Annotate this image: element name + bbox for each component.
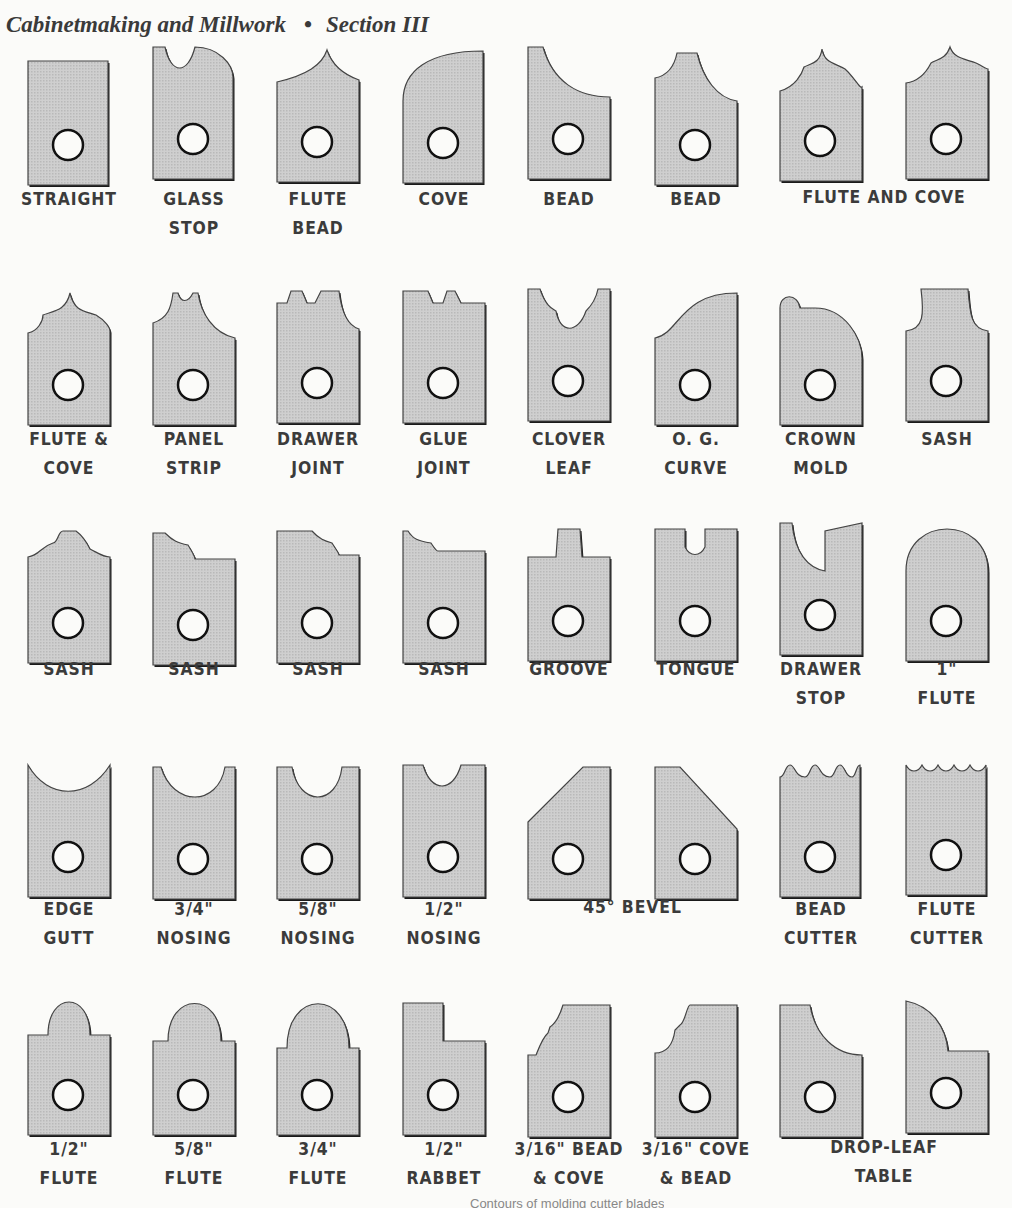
- blade-label-sash-4: SASH: [375, 655, 513, 684]
- arbor-hole-icon: [178, 124, 208, 154]
- blade-profile-icon: [277, 767, 365, 908]
- blade-profile-icon: [153, 47, 241, 188]
- blade-profile-icon: [906, 763, 994, 904]
- blade-profile-icon: [28, 53, 116, 194]
- arbor-hole-icon: [931, 366, 961, 396]
- blade-profile-icon: [403, 531, 491, 672]
- arbor-hole-icon: [680, 606, 710, 636]
- cutter-blade-drawer-joint: [277, 291, 359, 426]
- cutter-blade-five-eighth-nosing: [277, 767, 359, 902]
- blade-profile-icon: [780, 49, 868, 190]
- cutter-blade-bead-2: [655, 53, 737, 188]
- cutter-blade-bevel-1: [528, 767, 610, 902]
- blade-label-half-nosing: 1/2"NOSING: [375, 895, 513, 953]
- blade-profile-icon: [403, 51, 491, 192]
- blade-label-cove: COVE: [375, 185, 513, 214]
- blade-profile-icon: [780, 523, 868, 664]
- blade-profile-icon: [655, 53, 743, 194]
- blade-label-sash-1: SASH: [0, 655, 138, 684]
- arbor-hole-icon: [805, 842, 835, 872]
- blade-profile-icon: [655, 767, 743, 908]
- cutter-blade-groove: [528, 529, 610, 664]
- arbor-hole-icon: [302, 844, 332, 874]
- arbor-hole-icon: [178, 370, 208, 400]
- cutter-blade-flute-cutter: [906, 763, 988, 898]
- blade-profile-icon: [28, 1003, 116, 1144]
- blade-label-three-quarter-flute: 3/4"FLUTE: [249, 1135, 387, 1193]
- cutter-blade-crown-mold: [780, 293, 862, 428]
- cutter-blade-glass-stop: [153, 47, 235, 182]
- blade-profile-icon: [655, 529, 743, 670]
- cutter-blade-edge-gutt: [28, 765, 110, 900]
- arbor-hole-icon: [428, 608, 458, 638]
- blade-label-drawer-joint: DRAWERJOINT: [249, 425, 387, 483]
- blade-profile-icon: [28, 293, 116, 434]
- blade-profile-icon: [528, 1005, 616, 1146]
- cutter-blade-drop-leaf-1: [780, 1005, 862, 1140]
- cutter-blade-cove: [403, 51, 485, 186]
- arbor-hole-icon: [805, 370, 835, 400]
- blade-label-flute-bead: FLUTEBEAD: [249, 185, 387, 243]
- group-label: 45° BEVEL: [518, 893, 747, 922]
- blade-label-cove-and-bead: 3/16" COVE& BEAD: [627, 1135, 765, 1193]
- blade-label-half-rabbet: 1/2"RABBET: [375, 1135, 513, 1193]
- cutter-blade-flute-bead: [277, 50, 359, 185]
- cutter-blade-flute-and-cove-1: [780, 49, 862, 184]
- blade-profile-icon: [153, 533, 241, 674]
- blade-label-straight: STRAIGHT: [0, 185, 138, 214]
- blade-label-one-inch-flute: 1"FLUTE: [878, 655, 1012, 713]
- cutter-blade-one-inch-flute: [906, 529, 988, 664]
- cutter-blade-half-rabbet: [403, 1003, 485, 1138]
- blade-profile-icon: [528, 47, 616, 188]
- blade-label-edge-gutt: EDGEGUTT: [0, 895, 138, 953]
- arbor-hole-icon: [931, 124, 961, 154]
- arbor-hole-icon: [680, 1082, 710, 1112]
- arbor-hole-icon: [53, 370, 83, 400]
- blade-profile-icon: [780, 765, 868, 906]
- arbor-hole-icon: [931, 840, 961, 870]
- section-label: Section III: [326, 12, 429, 37]
- cutter-blade-glue-joint: [403, 291, 485, 426]
- blade-label-panel-strip: PANELSTRIP: [125, 425, 263, 483]
- blade-label-bead-cutter: BEADCUTTER: [752, 895, 890, 953]
- blade-label-drawer-stop: DRAWERSTOP: [752, 655, 890, 713]
- arbor-hole-icon: [53, 842, 83, 872]
- blade-profile-icon: [277, 291, 365, 432]
- cutter-blade-tongue: [655, 529, 737, 664]
- blade-profile-icon: [655, 293, 743, 434]
- blade-label-sash-3: SASH: [249, 655, 387, 684]
- cutter-blade-flute-and-cove: [28, 293, 110, 428]
- arbor-hole-icon: [805, 1082, 835, 1112]
- blade-label-sash-2: SASH: [125, 655, 263, 684]
- blade-profile-icon: [655, 1005, 743, 1146]
- arbor-hole-icon: [178, 844, 208, 874]
- arbor-hole-icon: [680, 130, 710, 160]
- cutter-blade-bevel-2: [655, 767, 737, 902]
- cutter-blade-sash-4: [403, 531, 485, 666]
- blade-label-bead-2: BEAD: [627, 185, 765, 214]
- blade-profile-icon: [906, 289, 994, 430]
- blade-label-sash: SASH: [878, 425, 1012, 454]
- blade-profile-icon: [28, 765, 116, 906]
- cutter-blade-bead-1: [528, 47, 610, 182]
- blade-profile-icon: [403, 765, 491, 906]
- blade-label-tongue: TONGUE: [627, 655, 765, 684]
- blade-label-flute-cutter: FLUTECUTTER: [878, 895, 1012, 953]
- arbor-hole-icon: [553, 1082, 583, 1112]
- blade-label-og-curve: O. G.CURVE: [627, 425, 765, 483]
- cutter-blade-half-flute: [28, 1003, 110, 1138]
- blade-profile-icon: [528, 529, 616, 670]
- cutter-blade-sash-1: [28, 531, 110, 666]
- cutter-blade-bead-and-cove: [528, 1005, 610, 1140]
- arbor-hole-icon: [302, 608, 332, 638]
- arbor-hole-icon: [53, 608, 83, 638]
- blade-label-five-eighth-flute: 5/8"FLUTE: [125, 1135, 263, 1193]
- cutter-blade-half-nosing: [403, 765, 485, 900]
- figure-caption: Contours of molding cutter blades: [470, 1196, 664, 1208]
- arbor-hole-icon: [680, 844, 710, 874]
- blade-profile-icon: [403, 291, 491, 432]
- arbor-hole-icon: [428, 128, 458, 158]
- blade-label-bead-1: BEAD: [500, 185, 638, 214]
- blade-label-glass-stop: GLASSSTOP: [125, 185, 263, 243]
- blade-profile-icon: [277, 531, 365, 672]
